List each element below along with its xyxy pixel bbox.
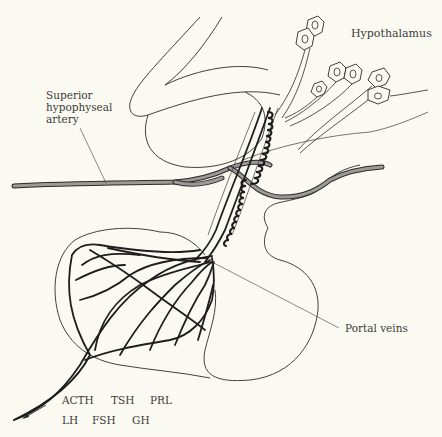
superior-hypophyseal-artery-label: Superior hypophyseal artery — [46, 89, 112, 125]
artery-label-line3: artery — [46, 113, 112, 125]
portal-system-diagram — [0, 0, 442, 437]
hormone-acth: ACTH — [62, 394, 94, 406]
neuron-cell — [368, 68, 390, 88]
hormone-gh: GH — [132, 414, 150, 426]
hormone-lh: LH — [62, 414, 78, 426]
portal-veins-label: Portal veins — [345, 322, 408, 334]
portal-veins-leader-line — [212, 262, 339, 328]
hormone-tsh: TSH — [111, 394, 134, 406]
neuron-cell — [311, 81, 327, 97]
neuron-cell — [368, 86, 390, 104]
artery-label-line2: hypophyseal — [46, 101, 112, 113]
neuron-cell — [344, 64, 362, 84]
hypothalamus-label: Hypothalamus — [351, 28, 432, 40]
hormone-fsh: FSH — [92, 414, 116, 426]
neuron-cell — [328, 62, 346, 82]
arrow-down-left-icon — [22, 405, 46, 419]
artery-label-line1: Superior — [46, 89, 112, 101]
hormone-prl: PRL — [150, 394, 172, 406]
artery-leader-line — [80, 128, 106, 183]
